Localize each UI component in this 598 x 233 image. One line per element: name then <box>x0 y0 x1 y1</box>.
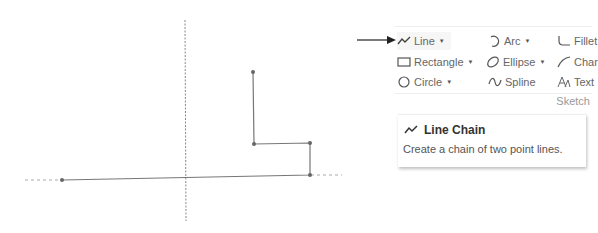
rectangle-tool-label: Rectangle <box>414 56 464 68</box>
fillet-tool-button[interactable]: Fillet <box>557 32 597 50</box>
circle-tool-label: Circle <box>414 76 442 88</box>
spline-tool-label: Spline <box>505 76 536 88</box>
vertical-axis <box>185 20 186 221</box>
rectangle-icon <box>397 56 411 68</box>
text-tool-label: Text <box>574 76 594 88</box>
sketch-point[interactable] <box>308 141 312 145</box>
circle-tool-button[interactable]: Circle ▼ <box>397 73 452 91</box>
chamfer-icon <box>557 56 571 68</box>
sketch-point[interactable] <box>252 142 256 146</box>
chamfer-tool-button[interactable]: Char <box>557 53 598 71</box>
chevron-down-icon[interactable]: ▼ <box>439 38 445 44</box>
tooltip-description: Create a chain of two point lines. <box>403 143 563 155</box>
line-tool-button[interactable]: Line ▼ <box>397 32 451 50</box>
ellipse-tool-button[interactable]: Ellipse ▼ <box>486 53 545 71</box>
arc-tool-button[interactable]: Arc ▼ <box>487 32 530 50</box>
tooltip-title: Line Chain <box>424 123 485 137</box>
tooltip-title-row: Line Chain <box>404 123 485 137</box>
sketch-point[interactable] <box>251 70 255 74</box>
ribbon-group-label: Sketch <box>556 95 590 107</box>
chevron-down-icon[interactable]: ▼ <box>525 38 531 44</box>
sketch-point[interactable] <box>308 173 312 177</box>
arc-tool-label: Arc <box>504 35 521 47</box>
spline-icon <box>488 76 502 88</box>
chevron-down-icon[interactable]: ▼ <box>539 59 545 65</box>
ribbon-separator <box>395 93 592 94</box>
arc-icon <box>487 35 501 47</box>
chevron-down-icon[interactable]: ▼ <box>468 59 474 65</box>
sketch-point[interactable] <box>60 178 64 182</box>
pointer-arrow-icon <box>357 34 397 46</box>
sketch-ribbon-panel: Line ▼ Arc ▼ Fillet Rectangle ▼ Ellipse … <box>395 26 592 111</box>
ellipse-icon <box>486 56 500 68</box>
circle-icon <box>397 76 411 88</box>
spline-tool-button[interactable]: Spline <box>488 73 536 91</box>
ellipse-tool-label: Ellipse <box>503 56 535 68</box>
chevron-down-icon[interactable]: ▼ <box>446 79 452 85</box>
chamfer-tool-label: Char <box>574 56 598 68</box>
line-chain-icon <box>404 125 418 135</box>
rectangle-tool-button[interactable]: Rectangle ▼ <box>397 53 474 71</box>
tooltip: Line Chain Create a chain of two point l… <box>398 114 586 167</box>
fillet-icon <box>557 35 571 47</box>
line-tool-label: Line <box>414 35 435 47</box>
text-icon <box>557 76 571 88</box>
text-tool-button[interactable]: Text <box>557 73 594 91</box>
fillet-tool-label: Fillet <box>574 35 597 47</box>
line-chain-icon <box>397 35 411 47</box>
